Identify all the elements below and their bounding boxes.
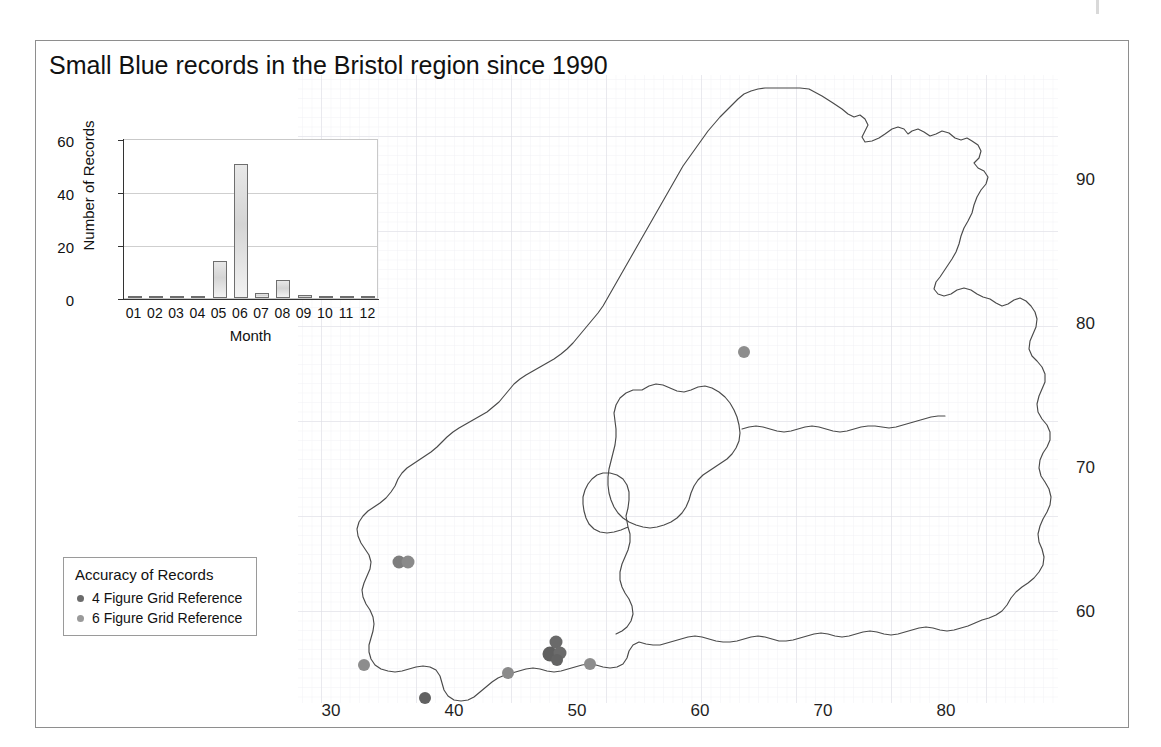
- bar-month-12: [361, 296, 375, 298]
- inset-x-tick-09: 09: [296, 305, 312, 321]
- legend-box[interactable]: Accuracy of Records 4 Figure Grid Refere…: [63, 557, 257, 636]
- figure-frame: Small Blue records in the Bristol region…: [35, 40, 1129, 728]
- bar-month-05: [213, 261, 227, 298]
- inset-y-tick-20: 20: [57, 239, 74, 256]
- inset-x-axis-label: Month: [123, 327, 378, 344]
- inset-x-tick-12: 12: [360, 305, 376, 321]
- map-y-tick-80: 80: [1076, 314, 1095, 334]
- inset-y-tick-40: 40: [57, 186, 74, 203]
- inset-gridline-40: [124, 193, 377, 194]
- map-x-tick-70: 70: [814, 701, 833, 721]
- inset-x-tick-08: 08: [275, 305, 291, 321]
- bar-month-02: [149, 296, 163, 298]
- inset-y-axis-line: [123, 139, 124, 300]
- bar-month-11: [340, 296, 354, 298]
- inset-bar-chart[interactable]: Number of Records 0 20 40 60: [56, 131, 401, 346]
- scan-edge-artefact: [1096, 0, 1099, 14]
- inset-y-tick-60: 60: [57, 133, 74, 150]
- inset-x-axis-line: [123, 299, 379, 300]
- record-point: [358, 659, 370, 671]
- inset-gridline-20: [124, 246, 377, 247]
- record-point: [402, 556, 415, 569]
- record-point: [419, 692, 431, 704]
- inset-y-tickmark-60: [118, 140, 123, 141]
- inset-x-tick-11: 11: [339, 305, 354, 321]
- bar-month-08: [276, 280, 290, 298]
- legend-title: Accuracy of Records: [75, 566, 256, 583]
- dot-marker-icon: [77, 595, 84, 602]
- inset-y-tickmark-20: [118, 246, 123, 247]
- record-point: [738, 346, 750, 358]
- bar-month-01: [128, 296, 142, 298]
- map-x-tick-30: 30: [322, 701, 341, 721]
- bar-month-07: [255, 293, 269, 298]
- inset-x-tick-04: 04: [190, 305, 206, 321]
- legend-item-4-figure[interactable]: 4 Figure Grid Reference: [75, 588, 256, 608]
- inset-y-axis-label: Number of Records: [80, 106, 97, 266]
- record-point: [551, 654, 563, 666]
- inset-x-tick-02: 02: [147, 305, 163, 321]
- inset-y-tickmark-40: [118, 193, 123, 194]
- inset-y-tickmark-0: [118, 299, 123, 300]
- legend-item-label: 4 Figure Grid Reference: [92, 590, 242, 606]
- inset-y-tick-0: 0: [66, 292, 74, 309]
- map-y-tick-90: 90: [1076, 170, 1095, 190]
- inset-x-tick-10: 10: [317, 305, 333, 321]
- bar-month-09: [298, 295, 312, 298]
- inset-x-tick-06: 06: [232, 305, 248, 321]
- map-x-tick-60: 60: [691, 701, 710, 721]
- map-x-tick-40: 40: [445, 701, 464, 721]
- inset-plot-area: [123, 139, 378, 299]
- legend-item-label: 6 Figure Grid Reference: [92, 610, 242, 626]
- dot-marker-icon: [77, 615, 84, 622]
- map-y-tick-60: 60: [1076, 602, 1095, 622]
- inset-x-tick-05: 05: [211, 305, 227, 321]
- inset-x-tick-07: 07: [253, 305, 269, 321]
- inset-x-tick-03: 03: [168, 305, 184, 321]
- map-x-tick-80: 80: [937, 701, 956, 721]
- inset-x-tick-01: 01: [126, 305, 142, 321]
- grid-layer: [298, 75, 1058, 703]
- bar-month-04: [191, 296, 205, 298]
- bar-month-10: [319, 296, 333, 298]
- page-title: Small Blue records in the Bristol region…: [49, 50, 608, 80]
- legend-item-6-figure[interactable]: 6 Figure Grid Reference: [75, 608, 256, 628]
- bar-month-03: [170, 296, 184, 298]
- bar-month-06: [234, 164, 248, 298]
- record-point: [584, 658, 596, 670]
- map-x-tick-50: 50: [568, 701, 587, 721]
- map-y-tick-70: 70: [1076, 458, 1095, 478]
- record-point: [502, 667, 514, 679]
